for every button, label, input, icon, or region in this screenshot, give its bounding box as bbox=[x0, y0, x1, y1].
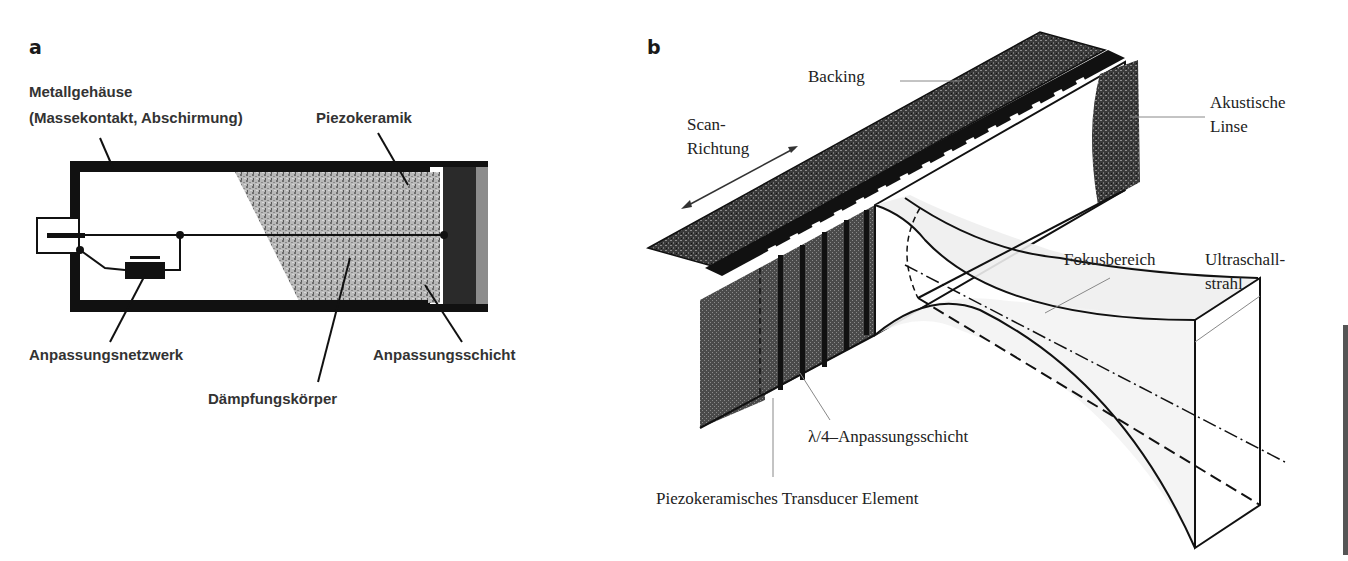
label-beam-line1: Ultraschall- bbox=[1205, 249, 1285, 271]
label-transducer-element: Piezokeramisches Transducer Element bbox=[656, 488, 919, 510]
label-damping-body: Dämpfungskörper bbox=[208, 385, 337, 412]
label-matching-network: Anpassungsnetzwerk bbox=[29, 341, 183, 368]
label-scan-line1: Scan- bbox=[687, 114, 726, 136]
label-focus-region: Fokusbereich bbox=[1064, 249, 1156, 271]
housing-bottom bbox=[70, 300, 428, 312]
label-lens-line1: Akustische bbox=[1210, 92, 1286, 114]
matching-layer bbox=[476, 165, 488, 310]
lens-front-face bbox=[700, 265, 765, 428]
label-beam-line2: strahl bbox=[1205, 273, 1243, 295]
figure-artwork bbox=[0, 0, 1348, 561]
piezo-element bbox=[443, 165, 476, 310]
label-matching-layer: Anpassungsschicht bbox=[373, 341, 516, 368]
label-lens-line2: Linse bbox=[1210, 116, 1248, 138]
label-scan-line2: Richtung bbox=[687, 138, 749, 160]
label-backing: Backing bbox=[808, 66, 865, 88]
label-lambda-layer: λ/4–Anpassungsschicht bbox=[808, 426, 968, 448]
panel-label-a: a bbox=[29, 36, 42, 58]
array-probe-drawing bbox=[648, 32, 1285, 548]
damping-body bbox=[235, 172, 440, 303]
label-housing-note: (Massekontakt, Abschirmung) bbox=[29, 104, 243, 131]
page-edge-bar bbox=[1343, 325, 1348, 555]
acoustic-lens bbox=[1092, 60, 1140, 205]
panel-label-b: b bbox=[647, 36, 661, 58]
label-metal-housing: Metallgehäuse bbox=[29, 78, 132, 105]
label-piezo: Piezokeramik bbox=[316, 104, 412, 131]
housing-top bbox=[70, 161, 428, 172]
